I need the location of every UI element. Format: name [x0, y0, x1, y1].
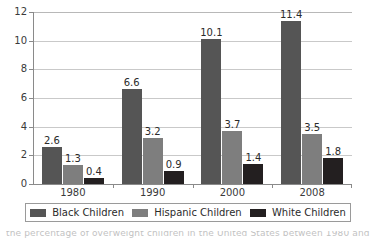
- x-category-label-1980: 1980: [60, 188, 85, 198]
- x-category-label-2008: 2008: [299, 188, 324, 198]
- y-tick-label-4: 4: [21, 122, 27, 132]
- legend-label-hispanic-children: Hispanic Children: [154, 208, 241, 218]
- bar-2008-hispanic-children[interactable]: 3.5: [302, 134, 322, 184]
- bar-2000-hispanic-children[interactable]: 3.7: [222, 131, 242, 184]
- bar-value-label-2000-white-children: 1.4: [245, 153, 261, 163]
- bar-value-label-1980-black-children: 2.6: [44, 136, 60, 146]
- x-category-label-2000: 2000: [220, 188, 245, 198]
- bar-value-label-1990-hispanic-children: 3.2: [145, 127, 161, 137]
- bar-1980-hispanic-children[interactable]: 1.3: [63, 165, 83, 184]
- chart-legend: Black Children Hispanic Children White C…: [25, 203, 351, 222]
- y-tick-label-6: 6: [21, 93, 27, 103]
- bar-2008-white-children[interactable]: 1.8: [323, 158, 343, 184]
- bar-2008-black-children[interactable]: 11.4: [281, 21, 301, 184]
- y-tick-mark-0: [29, 184, 33, 185]
- bar-value-label-1990-white-children: 0.9: [166, 160, 182, 170]
- plot-area: 024681012 2.61.30.46.63.20.910.13.71.411…: [33, 12, 352, 184]
- bar-group-1980: 2.61.30.4: [33, 12, 113, 184]
- bar-value-label-2000-hispanic-children: 3.7: [224, 120, 240, 130]
- bar-group-2000: 10.13.71.4: [193, 12, 273, 184]
- bar-1990-black-children[interactable]: 6.6: [122, 89, 142, 184]
- bar-1980-white-children[interactable]: 0.4: [84, 178, 104, 184]
- x-tick-mark-end: [351, 184, 352, 188]
- x-tick-mark-2: [193, 184, 194, 188]
- bar-value-label-2008-hispanic-children: 3.5: [304, 123, 320, 133]
- cropped-caption-strip: the percentage of overweight children in…: [6, 231, 370, 241]
- bar-2000-white-children[interactable]: 1.4: [243, 164, 263, 184]
- bar-1990-white-children[interactable]: 0.9: [164, 171, 184, 184]
- legend-swatch-hispanic-children: [132, 209, 148, 217]
- x-tick-mark-1: [113, 184, 114, 188]
- x-category-label-1990: 1990: [140, 188, 165, 198]
- legend-swatch-black-children: [30, 209, 46, 217]
- y-tick-label-12: 12: [14, 7, 27, 17]
- y-tick-label-2: 2: [21, 150, 27, 160]
- bar-value-label-1980-white-children: 0.4: [86, 167, 102, 177]
- bar-1980-black-children[interactable]: 2.6: [42, 147, 62, 184]
- bar-value-label-1980-hispanic-children: 1.3: [65, 154, 81, 164]
- bar-group-1990: 6.63.20.9: [113, 12, 193, 184]
- legend-item-hispanic-children[interactable]: Hispanic Children: [132, 208, 241, 218]
- bar-value-label-2008-black-children: 11.4: [280, 10, 302, 20]
- y-tick-label-0: 0: [21, 179, 27, 189]
- bar-value-label-2008-white-children: 1.8: [325, 147, 341, 157]
- bar-chart: 024681012 2.61.30.46.63.20.910.13.71.411…: [0, 0, 376, 241]
- bar-2000-black-children[interactable]: 10.1: [201, 39, 221, 184]
- bar-value-label-1990-black-children: 6.6: [124, 78, 140, 88]
- x-tick-mark-3: [272, 184, 273, 188]
- legend-swatch-white-children: [250, 209, 266, 217]
- bar-1990-hispanic-children[interactable]: 3.2: [143, 138, 163, 184]
- legend-label-white-children: White Children: [272, 208, 346, 218]
- legend-item-black-children[interactable]: Black Children: [30, 208, 124, 218]
- legend-item-white-children[interactable]: White Children: [250, 208, 346, 218]
- y-tick-label-8: 8: [21, 64, 27, 74]
- y-tick-label-10: 10: [14, 36, 27, 46]
- bar-group-2008: 11.43.51.8: [272, 12, 352, 184]
- bar-value-label-2000-black-children: 10.1: [200, 28, 222, 38]
- legend-label-black-children: Black Children: [52, 208, 124, 218]
- cropped-caption-text: the percentage of overweight children in…: [6, 231, 370, 238]
